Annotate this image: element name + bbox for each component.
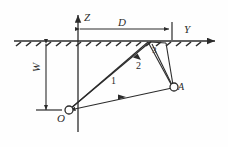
dimension-w-label: W [31, 63, 42, 72]
dimension-d [80, 22, 172, 40]
dimension-d-label: D [118, 17, 126, 28]
surface-hatching [16, 42, 201, 46]
ray-1-label: 1 [111, 76, 116, 86]
figure-canvas [0, 0, 228, 147]
point-o-marker [65, 106, 73, 114]
ground-surface [14, 41, 215, 46]
point-o-label: O [57, 113, 65, 124]
dimension-w [36, 44, 62, 110]
z-axis-label: Z [84, 12, 90, 23]
point-a-label: A [178, 82, 184, 92]
ray-2-label: 2 [136, 61, 141, 71]
ray-3-label: 3 [152, 46, 157, 55]
ray-path-figure: Z Y D W O A 1 2 3 [0, 0, 228, 147]
ray-1-path [70, 88, 172, 110]
point-a-marker [170, 83, 178, 91]
y-axis-label: Y [184, 24, 190, 35]
